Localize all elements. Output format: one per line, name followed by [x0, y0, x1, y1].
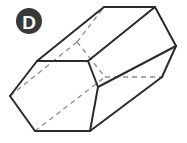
- option-label-badge: D: [16, 8, 42, 34]
- badge-letter: D: [22, 12, 36, 33]
- hexagonal-prism-figure: D: [0, 0, 187, 143]
- figure-container: D: [0, 0, 187, 143]
